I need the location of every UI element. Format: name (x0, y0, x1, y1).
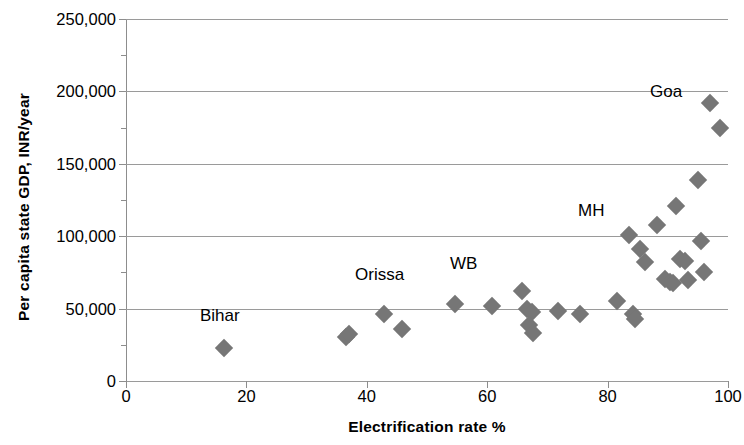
x-tick-label: 20 (216, 388, 276, 405)
y-tick-mark (119, 381, 126, 382)
point-label-orissa: Orissa (355, 266, 404, 283)
data-point (446, 294, 464, 312)
y-tick-mark (119, 19, 126, 20)
data-point (701, 94, 719, 112)
data-point (648, 215, 666, 233)
y-tick-label: 250,000 (8, 11, 116, 28)
data-point (710, 118, 728, 136)
x-tick-label: 60 (457, 388, 517, 405)
scatter-chart: Per capita state GDP, INR/year 050,00010… (0, 0, 744, 445)
x-tick-label: 100 (698, 388, 744, 405)
data-point (666, 197, 684, 215)
data-point (215, 338, 233, 356)
x-axis-line (126, 381, 728, 382)
point-label-bihar: Bihar (200, 307, 240, 324)
data-point (620, 226, 638, 244)
y-tick-mark (119, 91, 126, 92)
y-tick-label: 100,000 (8, 228, 116, 245)
data-point (549, 302, 567, 320)
y-tick-label: 150,000 (8, 156, 116, 173)
y-tick-mark (119, 236, 126, 237)
data-point (513, 282, 531, 300)
data-point (483, 297, 501, 315)
point-label-mh: MH (578, 202, 604, 219)
y-tick-mark (119, 309, 126, 310)
x-tick-label: 0 (96, 388, 156, 405)
x-tick-label: 80 (578, 388, 638, 405)
plot-area (126, 19, 728, 381)
data-point (393, 320, 411, 338)
point-label-wb: WB (450, 255, 477, 272)
data-point (689, 171, 707, 189)
y-tick-mark (119, 164, 126, 165)
x-axis-title: Electrification rate % (126, 418, 728, 436)
data-point (678, 270, 696, 288)
data-point (692, 232, 710, 250)
data-point (695, 263, 713, 281)
x-tick-label: 40 (337, 388, 397, 405)
y-tick-label: 50,000 (8, 301, 116, 318)
data-point (374, 304, 392, 322)
y-tick-label: 200,000 (8, 83, 116, 100)
data-point (607, 291, 625, 309)
data-point (571, 305, 589, 323)
point-label-goa: Goa (650, 83, 682, 100)
